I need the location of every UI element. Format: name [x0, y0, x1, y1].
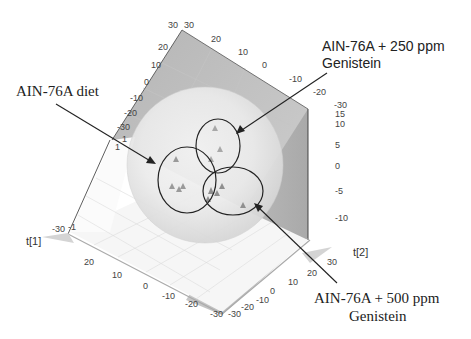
svg-text:-10: -10: [130, 93, 143, 103]
t2-axis-label: t[2]: [353, 246, 368, 258]
svg-text:-20: -20: [185, 299, 198, 309]
svg-text:30: 30: [327, 257, 337, 267]
svg-text:10: 10: [288, 277, 298, 287]
annotation-diet: AIN-76A diet: [16, 83, 99, 100]
svg-text:0: 0: [262, 60, 267, 70]
t1-axis-label: t[1]: [26, 235, 41, 247]
svg-text:15: 15: [335, 109, 345, 119]
svg-text:0: 0: [143, 281, 148, 291]
svg-text:1: 1: [115, 142, 120, 152]
svg-text:-10: -10: [289, 74, 302, 84]
annotation-250-line1: AIN-76A + 250 ppm: [322, 38, 445, 55]
svg-text:30: 30: [168, 20, 178, 30]
annotation-500-line2: Genistein: [349, 308, 407, 325]
svg-text:-30: -30: [210, 309, 223, 319]
t3-axis-ticks: 15 10 5 0 -5 -10: [335, 109, 348, 223]
svg-text:10: 10: [335, 119, 345, 129]
svg-text:20: 20: [158, 42, 168, 52]
svg-text:-20: -20: [241, 302, 254, 312]
svg-text:5: 5: [335, 140, 340, 150]
confidence-sphere: [127, 87, 283, 243]
svg-text:-10: -10: [162, 291, 175, 301]
svg-text:0: 0: [270, 286, 275, 296]
pca-3d-scores-plot: 30 20 10 0 -10 -20 -30 30 20 10 0 -10 -2…: [0, 0, 471, 339]
svg-text:20: 20: [211, 34, 221, 44]
svg-text:-30: -30: [228, 309, 241, 319]
svg-text:-10: -10: [256, 295, 269, 305]
svg-text:20: 20: [84, 257, 94, 267]
svg-text:-20: -20: [313, 87, 326, 97]
svg-text:-30: -30: [117, 122, 130, 132]
svg-text:-5: -5: [335, 186, 343, 196]
annotation-500-line1: AIN-76A + 500 ppm: [314, 290, 440, 307]
svg-text:-10: -10: [335, 213, 348, 223]
svg-text:-1: -1: [68, 222, 76, 232]
svg-text:1: 1: [122, 134, 127, 144]
svg-text:-20: -20: [124, 108, 137, 118]
svg-text:30: 30: [184, 20, 194, 30]
annotation-250-line2: Genistein: [322, 55, 381, 72]
svg-text:0: 0: [144, 77, 149, 87]
svg-text:0: 0: [335, 161, 340, 171]
svg-text:10: 10: [151, 60, 161, 70]
svg-text:10: 10: [112, 270, 122, 280]
svg-text:10: 10: [238, 47, 248, 57]
svg-text:-30: -30: [52, 224, 65, 234]
svg-text:20: 20: [307, 268, 317, 278]
